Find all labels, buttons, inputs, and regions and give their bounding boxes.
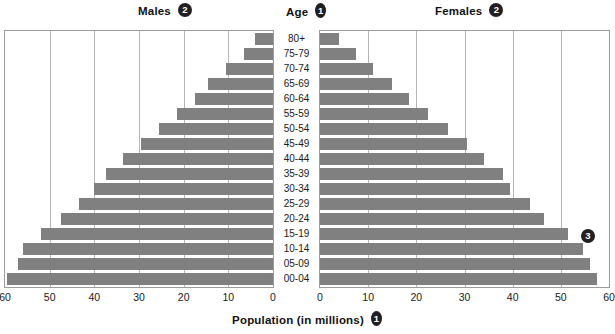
females-header: Females 2 xyxy=(435,4,503,18)
males-header: Males 2 xyxy=(138,4,192,18)
males-bar-row xyxy=(5,33,273,45)
males-bar-row xyxy=(5,48,273,60)
bar-females-75-79 xyxy=(320,48,356,60)
bar-males-60-64 xyxy=(195,93,273,105)
males-bar-rows xyxy=(5,31,273,287)
females-bar-row xyxy=(320,258,609,270)
bar-males-80+ xyxy=(255,33,273,45)
males-tick-20: 20 xyxy=(178,291,190,303)
males-bar-row xyxy=(5,213,273,225)
males-tick-60: 60 xyxy=(0,291,11,303)
females-header-label: Females xyxy=(435,5,482,17)
females-plot-area xyxy=(319,30,610,288)
females-bar-row xyxy=(320,243,609,255)
age-label-40-44: 40-44 xyxy=(274,153,319,165)
age-header-label: Age xyxy=(286,6,308,18)
callout-badge-2-males: 2 xyxy=(178,3,192,17)
males-bar-row xyxy=(5,153,273,165)
females-bar-row xyxy=(320,153,609,165)
age-label-20-24: 20-24 xyxy=(274,213,319,225)
females-tick-20: 20 xyxy=(410,291,422,303)
males-bar-row xyxy=(5,228,273,240)
bar-females-65-69 xyxy=(320,78,392,90)
bar-females-40-44 xyxy=(320,153,484,165)
bar-males-65-69 xyxy=(208,78,273,90)
bar-males-05-09 xyxy=(18,258,273,270)
males-bar-row xyxy=(5,78,273,90)
age-label-70-74: 70-74 xyxy=(274,63,319,75)
x-axis-title-label: Population (in millions) xyxy=(232,314,364,326)
males-bar-row xyxy=(5,243,273,255)
bar-females-30-34 xyxy=(320,183,510,195)
age-label-00-04: 00-04 xyxy=(274,273,319,285)
bar-males-75-79 xyxy=(244,48,273,60)
females-tick-50: 50 xyxy=(555,291,567,303)
bar-females-70-74 xyxy=(320,63,373,75)
age-label-55-59: 55-59 xyxy=(274,108,319,120)
females-bar-row xyxy=(320,138,609,150)
bar-males-50-54 xyxy=(159,123,273,135)
females-tick-40: 40 xyxy=(507,291,519,303)
x-axis-title: Population (in millions) 1 xyxy=(0,312,614,327)
males-tick-50: 50 xyxy=(44,291,56,303)
bar-males-00-04 xyxy=(7,273,273,285)
age-label-60-64: 60-64 xyxy=(274,93,319,105)
bar-females-80+ xyxy=(320,33,339,45)
bar-males-70-74 xyxy=(226,63,273,75)
males-bar-row xyxy=(5,273,273,285)
bar-males-25-29 xyxy=(79,198,273,210)
bar-females-20-24 xyxy=(320,213,544,225)
age-label-35-39: 35-39 xyxy=(274,168,319,180)
females-bar-row xyxy=(320,273,609,285)
age-label-45-49: 45-49 xyxy=(274,138,319,150)
chart-header: Males 2 Age 1 Females 2 xyxy=(0,0,614,28)
bar-females-50-54 xyxy=(320,123,448,135)
males-tick-40: 40 xyxy=(88,291,100,303)
age-header: Age 1 xyxy=(286,4,326,19)
males-axis-ticks: 6050403020100 xyxy=(0,291,290,305)
bar-females-10-14 xyxy=(320,243,583,255)
bar-males-15-19 xyxy=(41,228,273,240)
males-bar-row xyxy=(5,93,273,105)
males-header-label: Males xyxy=(138,5,171,17)
males-bar-row xyxy=(5,258,273,270)
females-bar-row xyxy=(320,228,609,240)
females-bar-row xyxy=(320,183,609,195)
males-plot-area xyxy=(4,30,274,288)
females-bar-row xyxy=(320,108,609,120)
age-label-05-09: 05-09 xyxy=(274,258,319,270)
bar-females-00-04 xyxy=(320,273,597,285)
bar-males-20-24 xyxy=(61,213,273,225)
females-tick-60: 60 xyxy=(603,291,615,303)
females-tick-0: 0 xyxy=(317,291,323,303)
callout-badge-3-bars: 3 xyxy=(581,229,595,243)
age-label-column: 80+75-7970-7465-6960-6455-5950-5445-4940… xyxy=(274,30,319,288)
males-tick-10: 10 xyxy=(222,291,234,303)
females-bar-row xyxy=(320,48,609,60)
males-bar-row xyxy=(5,108,273,120)
bar-males-10-14 xyxy=(23,243,273,255)
bar-males-45-49 xyxy=(141,138,273,150)
males-bar-row xyxy=(5,63,273,75)
males-tick-30: 30 xyxy=(133,291,145,303)
callout-badge-1-age: 1 xyxy=(315,3,326,18)
age-label-50-54: 50-54 xyxy=(274,123,319,135)
females-bar-rows xyxy=(320,31,609,287)
bar-males-55-59 xyxy=(177,108,273,120)
males-bar-row xyxy=(5,138,273,150)
age-label-25-29: 25-29 xyxy=(274,198,319,210)
males-bar-row xyxy=(5,183,273,195)
females-tick-10: 10 xyxy=(362,291,374,303)
males-bar-row xyxy=(5,123,273,135)
females-bar-row xyxy=(320,78,609,90)
bar-males-35-39 xyxy=(106,168,274,180)
bar-males-40-44 xyxy=(123,153,273,165)
bar-males-30-34 xyxy=(94,183,273,195)
males-tick-0: 0 xyxy=(270,291,276,303)
bar-females-15-19 xyxy=(320,228,568,240)
females-bar-row xyxy=(320,168,609,180)
age-label-30-34: 30-34 xyxy=(274,183,319,195)
bar-females-05-09 xyxy=(320,258,590,270)
bar-females-25-29 xyxy=(320,198,530,210)
